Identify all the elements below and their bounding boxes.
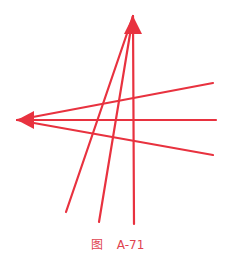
left-arrowhead-icon: [17, 111, 34, 129]
upper-arrowhead-icon: [124, 16, 142, 34]
arrow-diagram: [0, 0, 235, 261]
caption-label: A-71: [117, 238, 145, 252]
caption-prefix: 图: [91, 238, 103, 252]
up-line-1: [66, 16, 133, 212]
left-line-1: [17, 83, 213, 120]
figure-caption: 图A-71: [0, 235, 235, 252]
